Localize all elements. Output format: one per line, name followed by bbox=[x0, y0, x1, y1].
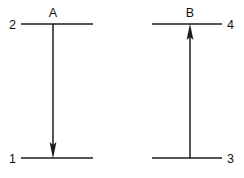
left-lower-level-label: 1 bbox=[9, 152, 16, 166]
left-upper-level-label: 2 bbox=[9, 18, 16, 32]
left-panel: 2 1 A bbox=[9, 6, 93, 166]
right-panel: 4 3 B bbox=[152, 6, 234, 166]
diagram-canvas: 2 1 A 4 3 B bbox=[0, 0, 244, 178]
right-upper-level-label: 4 bbox=[227, 18, 234, 32]
right-transition-label: B bbox=[186, 6, 194, 20]
left-transition-label: A bbox=[49, 6, 58, 20]
energy-level-diagram: 2 1 A 4 3 B bbox=[0, 0, 244, 178]
right-lower-level-label: 3 bbox=[227, 152, 234, 166]
